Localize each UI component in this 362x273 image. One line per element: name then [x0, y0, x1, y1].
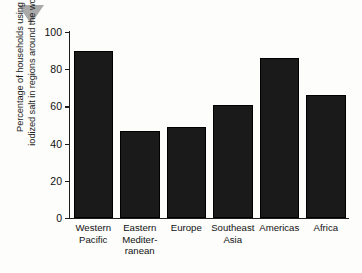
y-axis-label-line-1: Percentage of households using	[14, 2, 26, 132]
y-axis-tick	[65, 218, 70, 219]
bar-group: Europe	[163, 32, 210, 218]
bar	[213, 105, 253, 218]
bar	[167, 127, 207, 218]
bar-group: SoutheastAsia	[210, 32, 257, 218]
bar	[74, 51, 114, 218]
bar	[306, 95, 346, 218]
x-axis-category-label-line: ranean	[111, 245, 170, 257]
y-axis-tick-label: 60	[50, 100, 62, 112]
bar-group: Africa	[303, 32, 350, 218]
bar-series: WesternPacificEasternMediter-raneanEurop…	[70, 32, 349, 218]
x-axis-category-label-line: Africa	[297, 222, 356, 234]
x-axis-category-label-line: Mediter-	[111, 234, 170, 246]
y-axis-tick-label: 100	[44, 26, 62, 38]
y-axis-tick-label: 80	[50, 63, 62, 75]
x-axis-category-label: Africa	[297, 222, 356, 234]
x-axis-baseline	[69, 218, 349, 219]
bar-chart-figure: Percentage of households using iodized s…	[0, 0, 362, 273]
y-axis-label: Percentage of households using iodized s…	[11, 0, 41, 167]
bar-group: Americas	[256, 32, 303, 218]
y-axis-tick-label: 0	[56, 212, 62, 224]
y-axis-tick-label: 40	[50, 138, 62, 150]
y-axis-label-line-2: iodized salt in regions around the world	[26, 0, 38, 146]
y-axis-tick-label: 20	[50, 175, 62, 187]
plot-area: 020406080100 WesternPacificEasternMedite…	[70, 32, 349, 218]
bar-group: WesternPacific	[70, 32, 117, 218]
bar	[120, 131, 160, 218]
x-axis-category-label-line: Asia	[204, 234, 263, 246]
bar-group: EasternMediter-ranean	[117, 32, 164, 218]
bar	[260, 58, 300, 218]
